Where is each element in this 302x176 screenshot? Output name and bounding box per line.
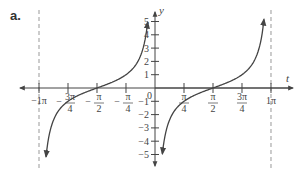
x-tick-sign: − (114, 96, 120, 107)
x-tick-label: 1π (266, 95, 276, 106)
y-tick-label: −2 (138, 109, 149, 120)
x-tick-denominator: 2 (96, 103, 101, 114)
y-tick-label: −5 (138, 149, 149, 160)
y-tick-label: 1 (144, 69, 149, 80)
origin-label: 0 (147, 90, 152, 101)
y-tick-label: 5 (144, 16, 149, 27)
y-tick-label: −4 (138, 136, 149, 147)
x-axis-label: t (286, 72, 290, 84)
x-tick-sign: − (85, 96, 91, 107)
x-tick-denominator: 2 (211, 103, 216, 114)
curve-arrow (162, 147, 163, 153)
y-tick-label: 2 (144, 56, 149, 67)
x-tick-denominator: 4 (239, 103, 244, 114)
x-tick-numerator: π (96, 91, 101, 102)
chart-plot: −1π−3π4−π2−π4π4π23π41π54321−1−2−3−4−5 t … (0, 0, 302, 176)
x-tick-numerator: π (210, 91, 215, 102)
x-tick-label: −1π (31, 95, 47, 106)
y-axis-label: y (158, 4, 164, 16)
y-tick-label: −3 (138, 122, 149, 133)
x-tick-numerator: π (125, 91, 130, 102)
x-tick-denominator: 4 (125, 103, 130, 114)
x-tick-denominator: 4 (68, 103, 73, 114)
x-tick-denominator: 4 (182, 103, 187, 114)
curve-arrow (46, 150, 47, 157)
x-tick-numerator: 3π (237, 91, 247, 102)
x-tick-sign: − (56, 96, 62, 107)
